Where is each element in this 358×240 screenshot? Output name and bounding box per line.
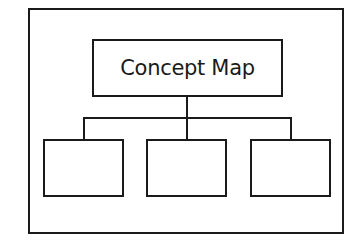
child-node-left xyxy=(43,139,124,197)
root-connector-vertical xyxy=(186,96,188,119)
child-node-right xyxy=(250,139,331,197)
child-node-middle xyxy=(146,139,227,197)
concept-map-root-node: Concept Map xyxy=(92,39,283,97)
branch-drop-right xyxy=(290,117,292,140)
branch-drop-middle xyxy=(186,117,188,140)
branch-drop-left xyxy=(83,117,85,140)
root-node-label: Concept Map xyxy=(120,56,255,80)
